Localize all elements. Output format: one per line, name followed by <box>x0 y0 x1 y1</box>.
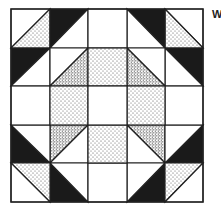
quilt-block <box>0 0 221 212</box>
corner-bottom-left <box>11 125 88 202</box>
corner-top-right <box>127 9 203 86</box>
corner-top-left <box>11 9 88 86</box>
edge-label: W <box>212 8 221 20</box>
corner-bottom-right <box>127 125 203 202</box>
